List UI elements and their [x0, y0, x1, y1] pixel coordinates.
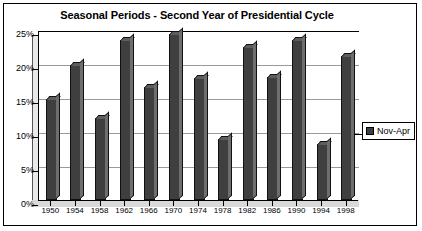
bar-1970[interactable]: [169, 34, 180, 200]
plot-area: [38, 31, 358, 201]
x-tick-label-1998: 1998: [333, 206, 359, 215]
x-tick-label-1950: 1950: [37, 206, 63, 215]
gridline-25%: [39, 31, 359, 32]
x-tick-label-1966: 1966: [136, 206, 162, 215]
y-tick-label-10%: 10%: [4, 131, 34, 141]
bar-side-face: [80, 59, 84, 199]
bar-side-face: [179, 27, 183, 199]
bar-side-face: [277, 70, 281, 199]
bar-1994[interactable]: [317, 144, 328, 200]
bar-side-face: [130, 34, 134, 199]
plot-wrap: 0%5%10%15%20%25% 19501954195819621966197…: [4, 4, 418, 227]
bar-1950[interactable]: [46, 99, 57, 200]
bar-side-face: [302, 34, 306, 199]
bar-1954[interactable]: [70, 65, 81, 200]
x-tick-label-1958: 1958: [87, 206, 113, 215]
bar-1974[interactable]: [194, 78, 205, 200]
y-tick-label-5%: 5%: [4, 165, 34, 175]
chart-window: Seasonal Periods - Second Year of Presid…: [3, 3, 417, 226]
bar-side-face: [204, 72, 208, 199]
bar-side-face: [351, 49, 355, 199]
x-tick-label-1978: 1978: [210, 206, 236, 215]
y-tick-label-20%: 20%: [4, 63, 34, 73]
x-tick-label-1994: 1994: [308, 206, 334, 215]
bar-side-face: [56, 93, 60, 199]
chart-legend: Nov-Apr: [362, 122, 415, 140]
bar-side-face: [327, 137, 331, 199]
bar-1986[interactable]: [267, 77, 278, 200]
bar-1982[interactable]: [243, 47, 254, 200]
x-tick-label-1962: 1962: [111, 206, 137, 215]
x-tick-label-1954: 1954: [62, 206, 88, 215]
y-tick-label-0%: 0%: [4, 199, 34, 209]
bar-1966[interactable]: [144, 87, 155, 200]
y-tick-label-15%: 15%: [4, 97, 34, 107]
bar-1998[interactable]: [341, 56, 352, 200]
bar-1978[interactable]: [218, 139, 229, 200]
bar-side-face: [228, 133, 232, 199]
gridline-20%: [39, 65, 359, 66]
bar-side-face: [105, 112, 109, 199]
x-tick-label-1970: 1970: [160, 206, 186, 215]
x-tick-label-1990: 1990: [283, 206, 309, 215]
x-tick-label-1982: 1982: [234, 206, 260, 215]
bar-1962[interactable]: [120, 40, 131, 200]
bar-side-face: [253, 40, 257, 199]
bar-1958[interactable]: [95, 118, 106, 200]
y-tick-label-25%: 25%: [4, 29, 34, 39]
legend-swatch-icon: [366, 127, 374, 135]
bar-1990[interactable]: [292, 40, 303, 200]
legend-label-0: Nov-Apr: [377, 126, 410, 136]
bar-side-face: [154, 81, 158, 199]
x-tick-label-1986: 1986: [259, 206, 285, 215]
x-tick-label-1974: 1974: [185, 206, 211, 215]
